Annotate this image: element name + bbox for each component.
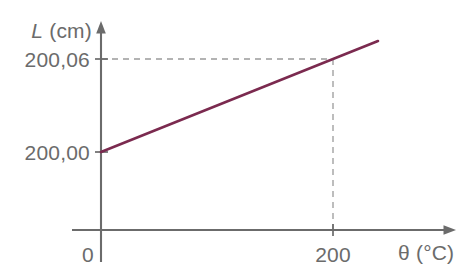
y-axis-unit: (cm) bbox=[49, 19, 92, 42]
ytick-label-200-06: 200,06 bbox=[25, 48, 90, 71]
x-axis-title: θ (°C) bbox=[398, 241, 454, 264]
x-axis-unit: (°C) bbox=[416, 241, 454, 264]
x-axis-symbol: θ bbox=[398, 241, 410, 264]
xtick-label-200: 200 bbox=[315, 243, 351, 266]
temperature-axis-arrow-icon bbox=[444, 225, 457, 235]
y-axis-title: L (cm) bbox=[31, 19, 92, 42]
plot-canvas: L (cm) θ (°C) 200,06 200,00 0 200 bbox=[0, 0, 475, 273]
length-axis-arrow-icon bbox=[96, 21, 106, 34]
xtick-label-0: 0 bbox=[82, 243, 94, 266]
ytick-label-200-00: 200,00 bbox=[25, 141, 90, 164]
data-series-line bbox=[101, 41, 378, 152]
y-axis-symbol: L bbox=[31, 19, 43, 42]
chart-figure: L (cm) θ (°C) 200,06 200,00 0 200 bbox=[0, 0, 475, 273]
